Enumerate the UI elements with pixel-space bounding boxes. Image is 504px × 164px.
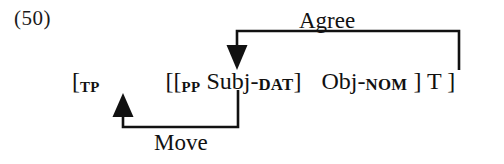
close-brackets-and-t: ] T ] xyxy=(407,66,455,96)
subject-word: Subj- xyxy=(200,66,258,96)
label-pp: PP xyxy=(182,72,201,102)
open-bracket-tp: [ xyxy=(72,66,80,96)
syntactic-structure: [ TP [[ PP Subj- DAT ] Obj- NOM ] T ] xyxy=(72,66,455,96)
open-brackets-pp: [[ xyxy=(166,66,182,96)
case-label-nom: NOM xyxy=(365,70,407,100)
example-figure: (50) [ TP [[ PP Subj- DAT ] Obj- NOM ] T… xyxy=(0,0,504,164)
move-arrowhead-up xyxy=(113,93,134,117)
case-label-dat: DAT xyxy=(258,70,293,100)
agree-arrow-path xyxy=(237,31,459,70)
example-number: (50) xyxy=(14,8,51,29)
agree-arrow-label: Agree xyxy=(299,9,355,32)
close-bracket-pp: ] xyxy=(293,66,301,96)
label-tp: TP xyxy=(80,72,100,102)
move-arrow-label: Move xyxy=(154,131,208,154)
object-word: Obj- xyxy=(321,66,365,96)
